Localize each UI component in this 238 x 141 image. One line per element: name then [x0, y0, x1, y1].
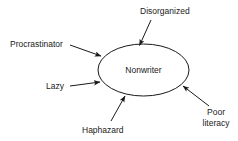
arrow-poor-literacy	[183, 86, 209, 106]
factor-label-haphazard: Haphazard	[82, 125, 124, 135]
factor-label-poor-literacy-line1: Poor	[207, 107, 225, 117]
arrow-lazy	[70, 82, 100, 86]
arrow-haphazard	[111, 96, 125, 121]
factor-label-lazy: Lazy	[46, 81, 65, 91]
arrow-procrastinator	[70, 45, 101, 56]
factor-label-disorganized: Disorganized	[140, 6, 190, 16]
concept-map-diagram: Nonwriter Disorganized Procrastinator La…	[0, 0, 238, 141]
factor-label-poor-literacy-line2: literacy	[203, 118, 231, 128]
center-node-label: Nonwriter	[125, 65, 162, 75]
factor-label-procrastinator: Procrastinator	[10, 39, 63, 49]
arrow-disorganized	[140, 20, 152, 46]
diagram-canvas: Nonwriter Disorganized Procrastinator La…	[0, 0, 238, 141]
